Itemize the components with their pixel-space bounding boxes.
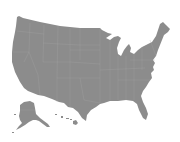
hawaii-shape (55, 114, 78, 125)
alaska-island (12, 132, 14, 133)
alaska-shape (16, 101, 50, 130)
us-map-svg (0, 0, 180, 142)
us-map (0, 0, 180, 142)
alaska-island (14, 114, 16, 115)
